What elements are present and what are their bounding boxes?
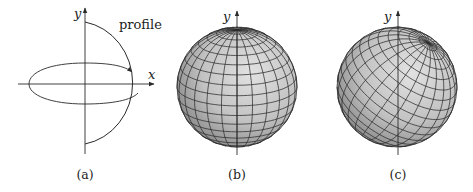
panel-a: y x profile (a) [18, 6, 162, 182]
caption-a: (a) [76, 167, 93, 182]
profile-curve [85, 22, 133, 144]
caption-c: (c) [390, 167, 407, 182]
y-axis-label-c: y [383, 9, 392, 24]
figure: y x profile (a) y (b) y (c) [0, 0, 473, 192]
profile-label: profile [119, 17, 162, 32]
y-axis-label: y [73, 6, 82, 21]
panel-b: y (b) [177, 9, 297, 182]
revolution-arrow [29, 63, 138, 104]
panel-c: y (c) [337, 9, 457, 182]
x-axis-label: x [148, 67, 156, 82]
y-axis-label-b: y [222, 9, 231, 24]
caption-b: (b) [228, 167, 246, 182]
